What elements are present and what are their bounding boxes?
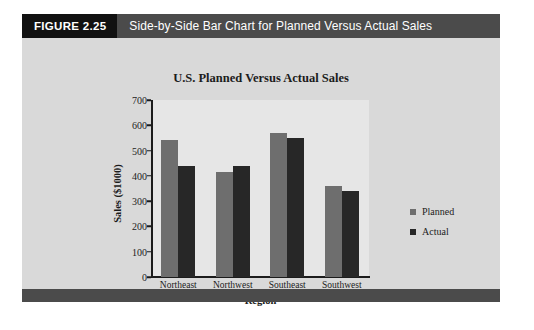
bar-actual-southeast — [287, 138, 304, 277]
legend-item-actual: Actual — [410, 226, 454, 237]
y-axis-tick-label: 300 — [132, 196, 147, 207]
figure-header: FIGURE 2.25 Side-by-Side Bar Chart for P… — [22, 14, 500, 38]
y-axis-line — [151, 100, 153, 277]
legend-item-planned: Planned — [410, 206, 454, 217]
y-axis-tick-mark — [147, 200, 151, 202]
y-axis-tick-label: 500 — [132, 145, 147, 156]
page-canvas: FIGURE 2.25 Side-by-Side Bar Chart for P… — [0, 0, 534, 330]
y-axis-tick-label: 600 — [132, 120, 147, 131]
figure-panel: FIGURE 2.25 Side-by-Side Bar Chart for P… — [22, 14, 500, 302]
figure-number-label: FIGURE 2.25 — [22, 14, 117, 38]
legend-label: Planned — [422, 206, 454, 217]
y-axis-title: Sales ($1000) — [112, 164, 123, 223]
bar-planned-southeast — [270, 133, 287, 277]
y-axis-tick-label: 700 — [132, 95, 147, 106]
chart-title: U.S. Planned Versus Actual Sales — [22, 71, 500, 86]
bar-actual-northeast — [178, 166, 195, 277]
y-axis-tick-mark — [147, 175, 151, 177]
y-axis-tick-label: 400 — [132, 170, 147, 181]
figure-caption-text: Side-by-Side Bar Chart for Planned Versu… — [117, 14, 500, 38]
legend-swatch-icon — [410, 209, 416, 215]
y-axis-tick-mark — [147, 226, 151, 228]
y-axis-tick-mark — [147, 150, 151, 152]
bar-planned-southwest — [325, 186, 342, 277]
figure-footer-bar — [22, 289, 500, 302]
y-axis-tick-mark — [147, 99, 151, 101]
bar-actual-southwest — [342, 191, 359, 277]
y-axis-tick-mark — [147, 276, 151, 278]
bar-actual-northwest — [233, 166, 250, 277]
y-axis-tick-label: 100 — [132, 246, 147, 257]
y-axis-tick-mark — [147, 125, 151, 127]
bar-planned-northeast — [161, 140, 178, 277]
chart-legend: PlannedActual — [410, 206, 454, 246]
chart-area: U.S. Planned Versus Actual Sales 0100200… — [22, 38, 500, 289]
legend-label: Actual — [422, 226, 449, 237]
y-axis-tick-label: 200 — [132, 221, 147, 232]
bar-planned-northwest — [216, 172, 233, 277]
legend-swatch-icon — [410, 229, 416, 235]
y-axis-tick-mark — [147, 251, 151, 253]
